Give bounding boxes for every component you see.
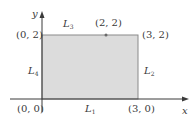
side-subscript: 4 xyxy=(35,70,39,77)
x-axis-arrow-icon xyxy=(182,97,189,102)
side-name: L xyxy=(85,103,92,114)
marked-point-dot xyxy=(105,34,108,37)
side-label-L1: L1 xyxy=(85,104,95,115)
side-subscript: 3 xyxy=(70,23,74,30)
side-name: L xyxy=(144,65,151,76)
vertex-label-3-0: (3, 0) xyxy=(128,104,155,114)
y-axis-arrow-icon xyxy=(40,11,45,18)
side-subscript: 2 xyxy=(151,70,155,77)
side-label-L4: L4 xyxy=(28,66,38,77)
marked-point-label: (2, 2) xyxy=(95,18,122,28)
vertex-label-0-0: (0, 0) xyxy=(17,104,44,114)
side-subscript: 1 xyxy=(92,108,96,115)
side-name: L xyxy=(63,18,70,29)
vertex-label-3-2: (3, 2) xyxy=(142,30,169,40)
side-label-L2: L2 xyxy=(144,66,154,77)
side-name: L xyxy=(28,65,35,76)
vertex-label-0-2: (0, 2) xyxy=(16,30,43,40)
x-axis-label: x xyxy=(182,106,188,116)
y-axis-label: y xyxy=(32,9,38,19)
rectangle-region xyxy=(42,35,138,99)
side-label-L3: L3 xyxy=(63,19,73,30)
